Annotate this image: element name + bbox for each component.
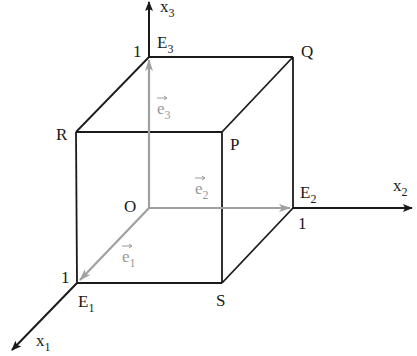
point-Q-label: Q (301, 42, 313, 61)
x1-axis-label: x1 (36, 331, 51, 354)
vector-e2-label: e2 (195, 176, 209, 202)
x1-unit-tick: 1 (61, 268, 70, 287)
edge-E3-R (76, 57, 149, 132)
edge-Q-P (222, 57, 293, 132)
unit-cube-diagram: x3 x2 x1 E3 E2 E1 Q R P S O 1 1 1 e3 e2 … (0, 0, 417, 356)
point-R-label: R (56, 125, 68, 144)
point-E1-label: E1 (78, 292, 94, 315)
x2-unit-tick: 1 (298, 214, 307, 233)
point-S-label: S (216, 291, 225, 310)
point-O-label: O (124, 197, 136, 216)
vector-e1 (80, 208, 149, 280)
x3-unit-tick: 1 (133, 42, 142, 61)
edge-R-E1 (76, 132, 77, 283)
edge-S-E2 (222, 208, 293, 283)
x3-axis-label: x3 (160, 0, 175, 20)
point-P-label: P (230, 135, 239, 154)
svg-text:e3: e3 (157, 99, 171, 122)
vector-e1-label: e1 (122, 244, 136, 270)
vector-e3-label: e3 (157, 96, 171, 122)
axes (12, 2, 412, 350)
point-E2-label: E2 (300, 183, 316, 206)
svg-text:e2: e2 (195, 179, 209, 202)
svg-text:e1: e1 (122, 247, 136, 270)
point-E3-label: E3 (157, 33, 173, 56)
x2-axis-label: x2 (393, 176, 408, 199)
